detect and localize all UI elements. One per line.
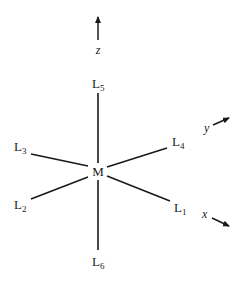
ligand-label-l6: L6 — [92, 254, 105, 271]
x-axis-label: x — [201, 207, 208, 221]
ligand-label-l3: L3 — [14, 139, 27, 156]
y-axis-label: y — [203, 121, 210, 135]
bond-m-l4 — [107, 148, 167, 167]
bond-m-l3 — [31, 154, 88, 166]
ligand-label-l5: L5 — [92, 76, 105, 93]
metal-center-label: M — [92, 164, 104, 179]
ligand-label-l4: L4 — [172, 134, 185, 151]
octahedral-diagram: M L5 L6 L3 L2 L4 L1 z y x — [0, 0, 248, 284]
x-axis-arrow-icon — [212, 218, 229, 226]
bond-m-l2 — [31, 177, 88, 199]
ligand-label-l2: L2 — [14, 197, 26, 214]
bond-m-l1 — [107, 176, 170, 201]
ligand-label-l1: L1 — [174, 200, 186, 217]
z-axis-label: z — [95, 43, 101, 57]
y-axis-arrow-icon — [213, 118, 229, 125]
